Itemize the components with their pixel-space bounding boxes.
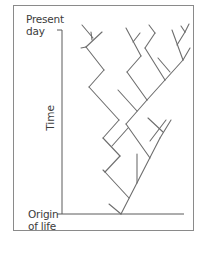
- present-day-label: Present day: [26, 13, 64, 37]
- present-label-line1: Present: [26, 13, 64, 25]
- time-axis-label: Time: [44, 105, 56, 131]
- tree-branch: [160, 120, 171, 138]
- tree-branch: [185, 24, 189, 32]
- tree-branch: [103, 170, 105, 172]
- tree-branch: [150, 120, 166, 141]
- tree-branch: [121, 138, 160, 214]
- tree-branch: [127, 56, 141, 72]
- tree-branch: [86, 47, 104, 70]
- tree-branch: [112, 128, 128, 146]
- tree-branch: [177, 32, 185, 45]
- tree-branch: [126, 124, 150, 158]
- tree-branch: [81, 47, 86, 48]
- present-label-line2: day: [26, 25, 64, 37]
- tree-branch: [147, 80, 165, 100]
- tree-branch: [127, 72, 147, 100]
- tree-branch: [105, 172, 129, 198]
- tree-branch: [103, 120, 119, 138]
- origin-label-line2: of life: [28, 220, 59, 232]
- tree-branch: [148, 118, 163, 132]
- tree-branch: [145, 33, 155, 48]
- tree-branch: [145, 48, 165, 80]
- tree-branch: [126, 100, 147, 124]
- tree-branch: [82, 25, 93, 38]
- tree-branch: [89, 87, 119, 120]
- tree-branch: [133, 33, 140, 42]
- tree-branch: [149, 25, 155, 33]
- tree-branch: [86, 32, 102, 47]
- tree-branch: [181, 26, 185, 32]
- tree-branch: [183, 48, 190, 60]
- origin-label-line1: Origin: [28, 208, 59, 220]
- tree-branch: [109, 204, 121, 214]
- branching-tree: [81, 24, 190, 214]
- tree-branch: [103, 138, 120, 156]
- tree-branch: [105, 156, 120, 172]
- tree-branch: [158, 58, 170, 72]
- tree-branch: [118, 90, 137, 111]
- tree-branch: [89, 70, 104, 87]
- origin-of-life-label: Origin of life: [28, 208, 59, 232]
